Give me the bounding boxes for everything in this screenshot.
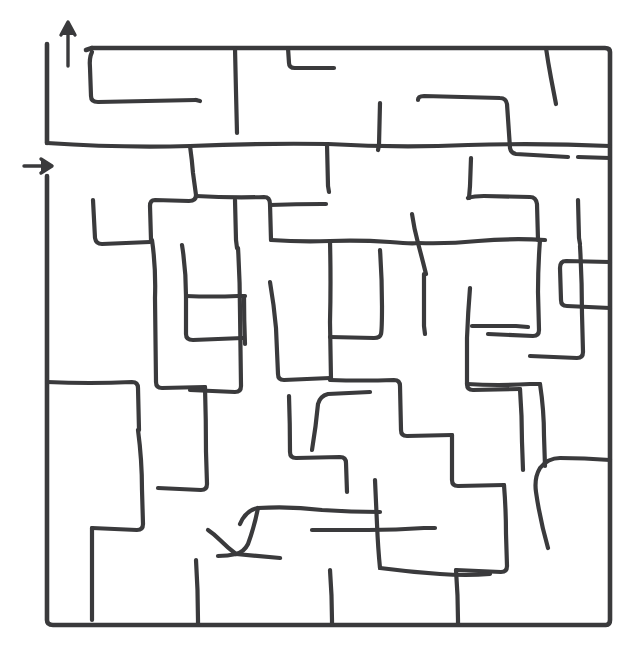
maze-wall-segment-44 xyxy=(240,507,380,524)
maze-wall-segment-23 xyxy=(186,296,245,297)
entrance-arrow-icon xyxy=(24,159,52,173)
maze-wall-segment-3 xyxy=(546,48,556,104)
maze-wall-segment-18 xyxy=(152,240,205,388)
maze-wall-segment-13 xyxy=(412,214,418,243)
entrance-arrow-stroke-1 xyxy=(41,159,52,173)
maze-wall-segment-8 xyxy=(378,103,380,150)
maze-wall-segment-16 xyxy=(468,196,538,240)
maze-wall-segment-32 xyxy=(467,384,540,385)
maze-page xyxy=(0,0,642,666)
maze-wall-segment-36 xyxy=(92,430,143,530)
maze-inner-walls xyxy=(47,48,610,625)
maze-wall-segment-58 xyxy=(196,100,200,101)
exit-arrow-stroke-1 xyxy=(61,22,75,35)
maze-wall-segment-26 xyxy=(424,274,425,334)
maze-wall-segment-51 xyxy=(330,570,332,625)
maze-wall-segment-46 xyxy=(208,530,236,554)
maze-wall-segment-14 xyxy=(418,243,426,274)
maze-wall-segment-35 xyxy=(158,387,207,490)
maze-wall-segment-57 xyxy=(578,157,610,158)
maze-wall-segment-6 xyxy=(327,144,329,192)
maze-wall-segment-28 xyxy=(330,250,382,338)
maze-wall-segment-43 xyxy=(312,528,435,530)
maze-wall-segment-12 xyxy=(271,240,418,243)
maze-wall-segment-1 xyxy=(235,48,237,133)
maze-wall-segment-22 xyxy=(270,282,330,380)
maze-wall-segment-53 xyxy=(520,389,523,470)
maze-wall-segment-55 xyxy=(244,296,245,344)
maze-wall-segment-41 xyxy=(456,485,507,572)
maze-wall-segment-0 xyxy=(90,52,196,102)
maze-wall-segment-25 xyxy=(488,240,540,336)
maze-wall-segment-49 xyxy=(196,560,198,625)
maze-wall-segment-38 xyxy=(452,435,504,486)
maze-wall-segment-47 xyxy=(236,554,280,558)
maze-wall-segment-5 xyxy=(150,146,196,240)
maze-wall-segment-30 xyxy=(47,382,139,430)
maze-wall-segment-34 xyxy=(190,248,241,392)
maze-wall-segment-9 xyxy=(469,158,471,198)
maze-wall-segment-20 xyxy=(270,204,326,205)
maze-wall-segment-17 xyxy=(578,200,580,244)
maze-wall-segment-45 xyxy=(218,508,258,556)
maze-border-segment-2 xyxy=(86,48,92,50)
maze-wall-segment-10 xyxy=(93,200,150,244)
maze-wall-segment-19 xyxy=(235,200,237,248)
maze-wall-segment-24 xyxy=(330,241,331,380)
maze-wall-segment-2 xyxy=(288,48,330,68)
exit-arrow-icon xyxy=(61,22,75,66)
maze-wall-segment-27 xyxy=(467,288,520,390)
maze-wall-segment-42 xyxy=(375,480,380,568)
maze-canvas xyxy=(0,0,642,666)
maze-wall-segment-15 xyxy=(418,239,545,243)
maze-wall-segment-40 xyxy=(536,458,611,548)
maze-wall-segment-54 xyxy=(312,392,370,450)
maze-wall-segment-29 xyxy=(560,261,610,308)
maze-wall-segment-56 xyxy=(472,326,528,327)
maze-wall-segment-21 xyxy=(182,245,243,340)
maze-wall-segment-52 xyxy=(456,570,458,625)
maze-wall-segment-39 xyxy=(540,384,545,466)
maze-wall-segment-31 xyxy=(330,380,452,436)
